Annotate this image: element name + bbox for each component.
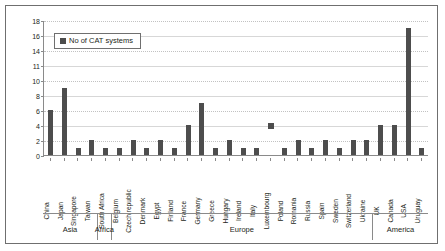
x-axis-label: Germany (194, 158, 208, 213)
y-axis-tick-label: 18 (32, 18, 40, 25)
bar (241, 148, 246, 156)
bar (131, 140, 136, 155)
x-axis-tick-mark (146, 158, 147, 161)
x-axis-tick-mark (201, 158, 202, 161)
x-axis-tick-mark (270, 158, 271, 161)
x-axis-label: Finland (167, 158, 181, 213)
x-axis-label: USA (401, 158, 415, 213)
region-group: Europe (112, 214, 373, 240)
bar-slot (360, 21, 374, 155)
x-axis-tick-mark (50, 158, 51, 161)
x-axis-label: Switzerland (346, 158, 360, 213)
bar (186, 125, 191, 155)
bar-slot (140, 21, 154, 155)
bar-slot (154, 21, 168, 155)
bar (103, 148, 108, 156)
x-axis-tick-mark (64, 158, 65, 161)
bar (172, 148, 177, 156)
x-axis-labels: ChinaJapanSingaporeTaiwanSouth AfricaBel… (43, 158, 428, 213)
x-axis-tick-mark (339, 158, 340, 161)
x-axis-label: Greece (208, 158, 222, 213)
x-axis-label: Taiwan (84, 158, 98, 213)
y-axis-tick-label: 11 (33, 63, 40, 70)
x-axis-tick-mark (256, 158, 257, 161)
bar (144, 148, 149, 156)
x-axis-tick-mark (407, 158, 408, 161)
x-axis-tick-mark (284, 158, 285, 161)
x-axis-label: Ireland (236, 158, 250, 213)
x-axis-label: UK (373, 158, 387, 213)
x-axis-tick-mark (215, 158, 216, 161)
bar (337, 148, 342, 156)
bar (76, 148, 81, 156)
x-axis-tick-mark (366, 158, 367, 161)
x-axis-label: Sweden (332, 158, 346, 213)
region-label: America (387, 226, 415, 234)
bar (227, 140, 232, 155)
x-axis-label: France (181, 158, 195, 213)
y-axis-tick-label: 4 (36, 123, 40, 130)
bar (213, 148, 218, 156)
legend: No of CAT systems (54, 33, 141, 49)
x-axis-tick-mark (119, 158, 120, 161)
bar-slot (182, 21, 196, 155)
bar (158, 140, 163, 155)
x-axis-tick-mark (91, 158, 92, 161)
x-axis-label: Luxembourg (263, 158, 277, 213)
x-axis-label: Romania (291, 158, 305, 213)
x-axis-tick-mark (242, 158, 243, 161)
bar (199, 103, 204, 156)
y-axis-tick-label: 0 (36, 153, 40, 160)
y-axis-tick-mark (41, 156, 44, 157)
x-axis-tick-mark (394, 158, 395, 161)
region-label: Europe (230, 226, 254, 234)
bar-slot (209, 21, 223, 155)
bar (309, 148, 314, 156)
x-axis-label: South Africa (98, 158, 112, 213)
x-axis-label: Czech republic (126, 158, 140, 213)
bar-slot (168, 21, 182, 155)
x-axis-tick-mark (297, 158, 298, 161)
x-axis-tick-mark (160, 158, 161, 161)
bar (392, 125, 397, 155)
region-group: Africa (98, 214, 112, 240)
bar-slot (305, 21, 319, 155)
bar (323, 140, 328, 155)
x-axis-label: Egypt (153, 158, 167, 213)
x-axis-label: Canada (387, 158, 401, 213)
bar-slot (278, 21, 292, 155)
bar (254, 148, 259, 156)
x-axis-label: Italy (249, 158, 263, 213)
x-axis-label: Hungary (222, 158, 236, 213)
bar-slot (319, 21, 333, 155)
x-axis-tick-mark (77, 158, 78, 161)
x-axis-tick-mark (229, 158, 230, 161)
bar-slot (195, 21, 209, 155)
bar-slot (374, 21, 388, 155)
x-axis-label: Russia (304, 158, 318, 213)
x-axis-label: Denmark (139, 158, 153, 213)
x-axis-tick-mark (421, 158, 422, 161)
x-axis-tick-mark (352, 158, 353, 161)
bar (364, 140, 369, 155)
bar-slot (333, 21, 347, 155)
x-axis-label: Uruguay (414, 158, 428, 213)
bar (48, 110, 53, 155)
legend-label: No of CAT systems (69, 37, 133, 45)
y-axis-tick-label: 14 (32, 48, 40, 55)
region-label: Asia (63, 226, 78, 234)
x-axis-label: Ukraine (359, 158, 373, 213)
legend-swatch-icon (60, 38, 66, 44)
bar (296, 140, 301, 155)
y-axis-tick-label: 2 (36, 138, 40, 145)
bar-slot (388, 21, 402, 155)
detached-marker-icon (268, 123, 274, 129)
region-group: Asia (43, 214, 98, 240)
bar (117, 148, 122, 156)
region-band: AsiaAfricaEuropeAmerica (43, 213, 428, 240)
x-axis-label: China (43, 158, 57, 213)
x-axis-label: Singapore (71, 158, 85, 213)
x-axis-label: Spain (318, 158, 332, 213)
bar-slot (292, 21, 306, 155)
y-axis-tick-label: 16 (32, 33, 40, 40)
